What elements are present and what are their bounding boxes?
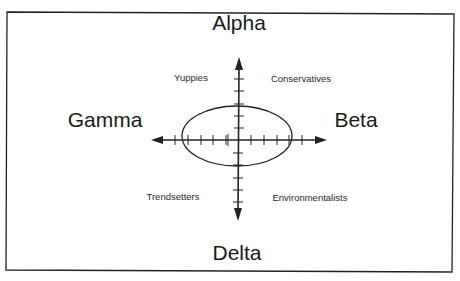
segment-ellipse <box>182 106 292 166</box>
pole-label-right: Beta <box>334 108 378 131</box>
vertical-axis <box>228 57 244 221</box>
diagram-frame <box>6 12 454 272</box>
arrow-right-icon <box>315 136 327 144</box>
pole-label-left: Gamma <box>68 108 143 131</box>
perceptual-map-diagram: Alpha Gamma Beta Delta Yuppies Conservat… <box>0 0 460 281</box>
pole-label-top: Alpha <box>212 11 266 34</box>
quadrant-label-bottom-left: Trendsetters <box>147 191 200 202</box>
quadrant-label-top-left: Yuppies <box>174 72 208 83</box>
arrow-up-icon <box>235 57 243 70</box>
arrow-down-icon <box>234 208 242 221</box>
pole-label-bottom: Delta <box>212 241 261 264</box>
quadrant-label-bottom-right: Environmentalists <box>273 192 348 203</box>
quadrant-label-top-right: Conservatives <box>271 73 331 84</box>
arrow-left-icon <box>151 136 163 144</box>
